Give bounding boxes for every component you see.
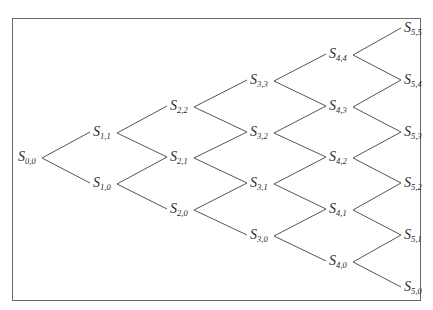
tree-node-5-5: S5,5: [404, 21, 422, 35]
tree-edge: [194, 183, 247, 210]
node-subscript: 2,0: [177, 208, 188, 218]
node-symbol: S: [170, 149, 177, 164]
tree-edge: [274, 184, 326, 209]
node-symbol: S: [93, 124, 100, 139]
tree-node-5-4: S5,4: [404, 73, 422, 87]
tree-edge: [274, 157, 326, 184]
node-subscript: 4,1: [336, 208, 347, 218]
node-subscript: 5,3: [411, 131, 422, 141]
node-symbol: S: [329, 46, 336, 61]
tree-edge: [117, 133, 167, 157]
node-subscript: 4,4: [336, 53, 347, 63]
tree-node-5-2: S5,2: [404, 176, 422, 190]
tree-edge: [274, 54, 326, 81]
tree-edge: [353, 80, 401, 107]
tree-node-3-3: S3,3: [250, 73, 268, 87]
tree-node-2-0: S2,0: [170, 202, 188, 216]
node-symbol: S: [329, 201, 336, 216]
tree-node-0-0: S0,0: [18, 150, 36, 164]
tree-edge: [353, 183, 401, 210]
tree-node-4-3: S4,3: [329, 99, 347, 113]
tree-edge: [117, 157, 167, 184]
node-subscript: 5,0: [411, 286, 422, 296]
tree-edge: [274, 81, 326, 106]
tree-edge: [42, 132, 90, 158]
tree-edge: [353, 235, 401, 262]
tree-edge: [42, 158, 90, 183]
tree-node-4-1: S4,1: [329, 202, 347, 216]
tree-edge: [274, 133, 326, 157]
node-subscript: 5,4: [411, 79, 422, 89]
node-subscript: 4,0: [336, 260, 347, 270]
node-subscript: 1,1: [100, 131, 111, 141]
node-symbol: S: [404, 72, 411, 87]
node-symbol: S: [18, 149, 25, 164]
node-subscript: 3,1: [257, 182, 268, 192]
tree-edge: [117, 106, 167, 133]
node-subscript: 0,0: [25, 156, 36, 166]
tree-node-5-1: S5,1: [404, 228, 422, 242]
node-symbol: S: [93, 175, 100, 190]
node-symbol: S: [329, 253, 336, 268]
node-subscript: 2,2: [177, 105, 188, 115]
node-symbol: S: [404, 20, 411, 35]
node-subscript: 5,2: [411, 182, 422, 192]
tree-edge: [353, 262, 401, 287]
tree-edge: [274, 209, 326, 236]
node-subscript: 5,5: [411, 27, 422, 37]
node-subscript: 4,2: [336, 156, 347, 166]
tree-node-3-2: S3,2: [250, 125, 268, 139]
node-symbol: S: [250, 124, 257, 139]
node-symbol: S: [329, 149, 336, 164]
tree-node-5-3: S5,3: [404, 125, 422, 139]
tree-edge: [274, 106, 326, 133]
tree-edge: [274, 236, 326, 261]
node-symbol: S: [404, 175, 411, 190]
node-symbol: S: [404, 227, 411, 242]
tree-node-4-0: S4,0: [329, 254, 347, 268]
tree-node-3-1: S3,1: [250, 176, 268, 190]
tree-edge: [353, 28, 401, 55]
tree-edge: [353, 55, 401, 80]
node-symbol: S: [170, 98, 177, 113]
node-subscript: 2,1: [177, 156, 188, 166]
tree-edge: [353, 158, 401, 183]
tree-edge: [194, 210, 247, 235]
node-subscript: 3,0: [257, 234, 268, 244]
node-subscript: 5,1: [411, 234, 422, 244]
tree-edge: [353, 107, 401, 132]
node-symbol: S: [250, 175, 257, 190]
node-symbol: S: [404, 279, 411, 294]
tree-node-3-0: S3,0: [250, 228, 268, 242]
node-symbol: S: [250, 227, 257, 242]
tree-edge: [194, 132, 247, 158]
node-subscript: 1,0: [100, 182, 111, 192]
node-subscript: 4,3: [336, 105, 347, 115]
tree-node-2-2: S2,2: [170, 99, 188, 113]
node-subscript: 3,3: [257, 79, 268, 89]
tree-node-5-0: S5,0: [404, 280, 422, 294]
tree-edge: [353, 210, 401, 235]
tree-edge: [117, 184, 167, 209]
tree-edges: [0, 0, 433, 310]
tree-node-1-1: S1,1: [93, 125, 111, 139]
tree-node-4-4: S4,4: [329, 47, 347, 61]
tree-edge: [194, 80, 247, 107]
node-symbol: S: [329, 98, 336, 113]
tree-node-2-1: S2,1: [170, 150, 188, 164]
node-subscript: 3,2: [257, 131, 268, 141]
node-symbol: S: [404, 124, 411, 139]
tree-edge: [194, 107, 247, 132]
node-symbol: S: [170, 201, 177, 216]
tree-node-4-2: S4,2: [329, 150, 347, 164]
node-symbol: S: [250, 72, 257, 87]
tree-edge: [194, 158, 247, 183]
tree-node-1-0: S1,0: [93, 176, 111, 190]
tree-edge: [353, 132, 401, 158]
